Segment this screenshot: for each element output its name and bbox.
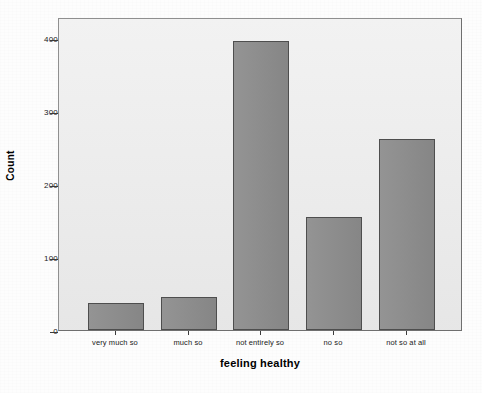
x-tick-label-not-so-at-all: not so at all <box>356 338 456 347</box>
bar-shading <box>162 298 216 329</box>
bar-not-so-at-all <box>379 139 435 330</box>
x-tick-mark-no-so <box>333 331 334 335</box>
bar-shading <box>380 140 434 329</box>
y-axis-title: Count <box>5 136 16 196</box>
plot-area <box>58 18 462 331</box>
y-tick-mark-100 <box>50 259 58 260</box>
bar-shading <box>307 218 361 329</box>
bar-chart-figure: 400 300 200 100 0 Count <box>0 0 482 393</box>
x-tick-mark-very-much-so <box>115 331 116 335</box>
x-tick-mark-not-entirely-so <box>260 331 261 335</box>
bar-very-much-so <box>88 303 144 330</box>
x-tick-mark-not-so-at-all <box>406 331 407 335</box>
y-tick-mark-400 <box>50 40 58 41</box>
y-tick-mark-300 <box>50 113 58 114</box>
x-axis-title: feeling healthy <box>58 357 462 369</box>
y-axis: 400 300 200 100 0 <box>0 0 58 393</box>
bar-not-entirely-so <box>233 41 289 330</box>
y-tick-mark-200 <box>50 186 58 187</box>
bar-much-so <box>161 297 217 330</box>
x-tick-mark-much-so <box>188 331 189 335</box>
x-axis: very much so much so not entirely so no … <box>58 338 462 352</box>
y-tick-mark-0 <box>50 332 58 333</box>
bar-shading <box>89 304 143 329</box>
bar-no-so <box>306 217 362 330</box>
bar-shading <box>234 42 288 329</box>
